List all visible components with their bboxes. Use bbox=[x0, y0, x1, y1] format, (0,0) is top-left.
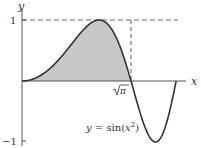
tick-label-y-neg1: −1 bbox=[2, 136, 17, 147]
y-axis-label: y bbox=[17, 0, 25, 13]
tick-label-sqrt-pi: π bbox=[113, 85, 129, 96]
tick-label-y-1: 1 bbox=[10, 15, 16, 26]
radicand: π bbox=[119, 86, 127, 96]
sine-squared-plot: y x 1 −1 π y = sin(x2) bbox=[0, 0, 201, 148]
curve-label-eq: = sin( bbox=[92, 122, 126, 133]
curve-label: y = sin(x2) bbox=[85, 121, 139, 133]
x-axis-label: x bbox=[191, 75, 198, 88]
shaded-area bbox=[22, 20, 131, 81]
